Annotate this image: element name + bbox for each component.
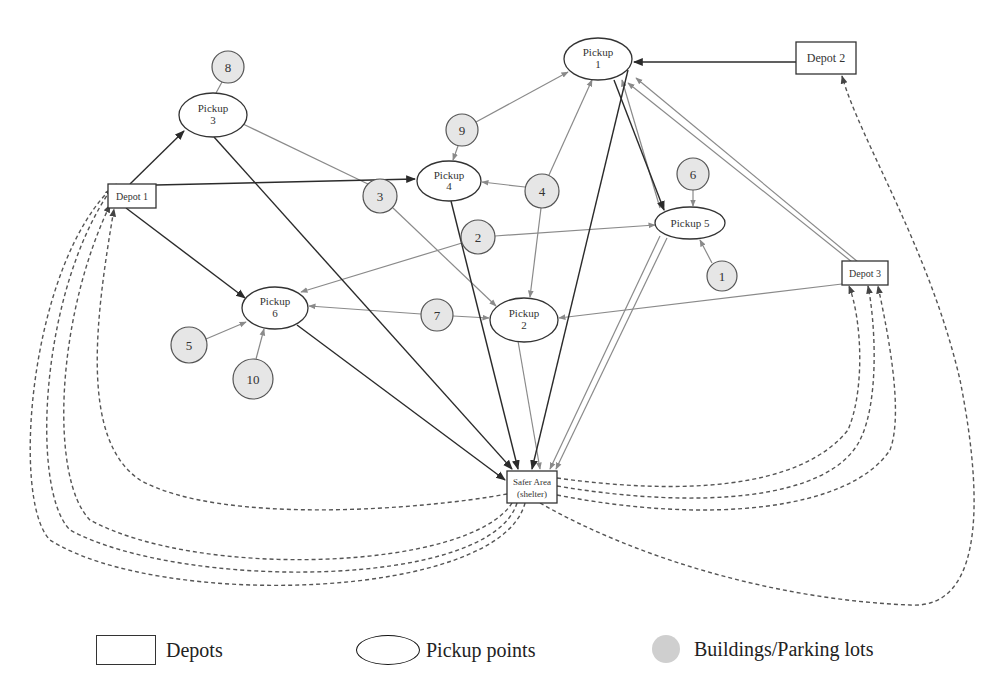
legend-pickup-label: Pickup points [426,639,535,662]
building-8-label: 8 [225,60,232,75]
pickup-3[interactable]: Pickup 3 [179,93,247,137]
building-4[interactable]: 4 [525,174,559,208]
legend-depots-label: Depots [166,639,223,662]
safer-area-shelter[interactable]: Safer Area (shelter) [507,471,557,503]
depot-3[interactable]: Depot 3 [842,261,888,285]
building-1[interactable]: 1 [707,261,737,291]
building-5-label: 5 [186,338,193,353]
building-6[interactable]: 6 [677,158,709,190]
pickup-2-number: 2 [521,319,527,331]
building-10-label: 10 [247,372,260,387]
pickup-5-label: Pickup 5 [671,217,710,229]
building-3[interactable]: 3 [363,179,397,213]
legend-depots: Depots [96,635,223,665]
building-4-label: 4 [539,184,546,199]
pickup-6-label: Pickup [260,295,291,307]
pickup-2[interactable]: Pickup 2 [490,298,558,342]
pickup-4[interactable]: Pickup 4 [417,161,481,201]
depot-2-label: Depot 2 [807,51,845,65]
shelter-label-line2: (shelter) [517,489,547,499]
filled-circle-icon [652,635,680,663]
pickup-1-label: Pickup [583,46,614,58]
evacuation-network-diagram: Depot 1 Depot 2 Depot 3 Safer Area (shel… [0,0,1008,689]
legend: Depots Pickup points Buildings/Parking l… [0,635,1008,675]
light-edges [206,72,858,469]
building-5[interactable]: 5 [171,327,207,363]
building-3-label: 3 [377,189,384,204]
depot-1[interactable]: Depot 1 [108,184,156,208]
depot-2[interactable]: Depot 2 [796,42,856,74]
ellipse-icon [356,635,420,665]
building-7-label: 7 [434,308,441,323]
legend-pickup-points: Pickup points [356,635,535,665]
building-2-label: 2 [475,230,482,245]
legend-buildings-label: Buildings/Parking lots [694,638,873,661]
depot-1-label: Depot 1 [116,191,148,202]
pickup-3-label: Pickup [198,102,229,114]
building-7[interactable]: 7 [421,299,453,331]
building-6-label: 6 [690,167,697,182]
building-9[interactable]: 9 [446,114,478,146]
building-2[interactable]: 2 [461,220,495,254]
pickup-2-label: Pickup [509,307,540,319]
depot-3-label: Depot 3 [849,268,881,279]
pickup-6-number: 6 [272,307,278,319]
pickup-1-number: 1 [595,58,601,70]
building-10[interactable]: 10 [233,359,273,399]
shelter-label-line1: Safer Area [513,477,551,487]
pickup-1[interactable]: Pickup 1 [564,38,632,80]
pickup-5[interactable]: Pickup 5 [655,207,725,239]
pickup-3-number: 3 [210,114,216,126]
building-8[interactable]: 8 [212,51,244,83]
legend-buildings: Buildings/Parking lots [652,635,873,663]
building-1-label: 1 [719,269,726,284]
rectangle-icon [96,635,156,665]
pickup-6[interactable]: Pickup 6 [242,287,308,329]
pickup-4-number: 4 [446,180,452,192]
building-9-label: 9 [459,123,466,138]
